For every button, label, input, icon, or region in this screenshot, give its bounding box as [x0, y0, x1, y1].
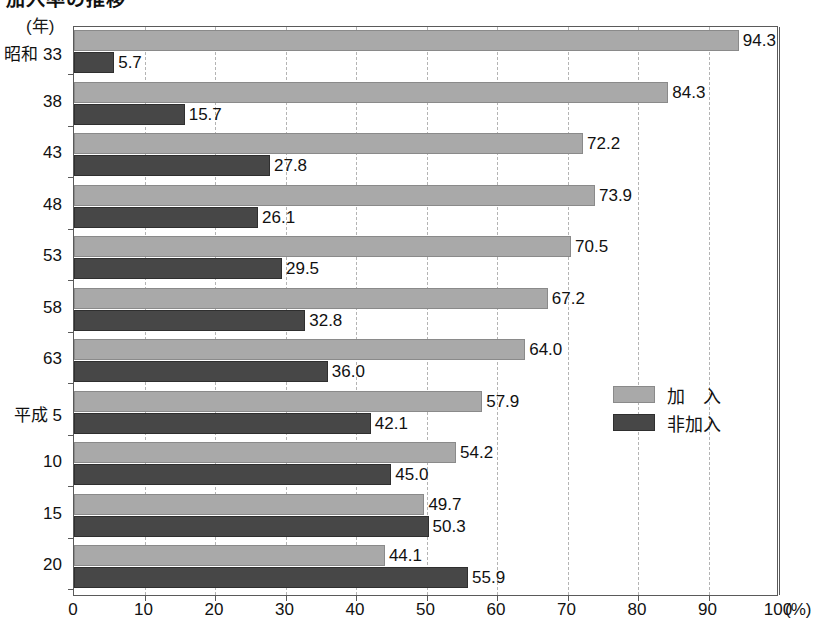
y-axis-tick — [68, 435, 74, 436]
bar-nonmember — [74, 52, 114, 73]
bar-value-label-nonmember: 29.5 — [282, 258, 319, 279]
y-axis-tick — [68, 280, 74, 281]
y-axis-labels: 昭和 33384348535863平成 5101520 — [0, 26, 66, 596]
bar-row: 73.926.1 — [74, 185, 777, 229]
y-axis-tick — [68, 126, 74, 127]
x-axis-tick-label: 70 — [557, 600, 576, 620]
bar-value-label-nonmember: 27.8 — [270, 155, 307, 176]
bar-member — [74, 288, 548, 309]
y-axis-label: 15 — [0, 504, 66, 524]
bar-value-label-member: 49.7 — [424, 494, 461, 515]
bar-value-label-member: 70.5 — [571, 236, 608, 257]
x-axis-tick-label: 40 — [346, 600, 365, 620]
bar-value-label-nonmember: 42.1 — [371, 413, 408, 434]
bar-nonmember — [74, 310, 305, 331]
plot-area: 94.35.784.315.772.227.873.926.170.529.56… — [73, 26, 778, 596]
y-axis-label: 43 — [0, 143, 66, 163]
bar-nonmember — [74, 258, 282, 279]
x-axis-tick-label: 60 — [487, 600, 506, 620]
y-axis-label: 昭和 33 — [0, 40, 66, 65]
legend-label-nonmember: 非加入 — [667, 410, 721, 436]
legend-label-member: 加 入 — [667, 382, 721, 408]
legend-swatch-nonmember-icon — [613, 414, 655, 431]
bar-value-label-member: 64.0 — [525, 339, 562, 360]
y-axis-tick — [68, 332, 74, 333]
y-axis-tick — [68, 538, 74, 539]
bar-value-label-nonmember: 15.7 — [185, 104, 222, 125]
bar-nonmember — [74, 464, 391, 485]
x-axis-tick-label: 10 — [134, 600, 153, 620]
y-axis-label: 63 — [0, 349, 66, 369]
bar-nonmember — [74, 516, 429, 537]
bar-value-label-nonmember: 50.3 — [429, 516, 466, 537]
bar-member — [74, 442, 456, 463]
x-axis-tick-label: 50 — [416, 600, 435, 620]
bar-member — [74, 185, 595, 206]
bar-row: 72.227.8 — [74, 133, 777, 177]
bar-member — [74, 133, 583, 154]
y-axis-tick — [68, 177, 74, 178]
x-axis-tick-label: 90 — [698, 600, 717, 620]
bar-member — [74, 339, 525, 360]
bar-value-label-nonmember: 45.0 — [391, 464, 428, 485]
bar-nonmember — [74, 207, 258, 228]
x-axis-tick-label: 100 — [764, 600, 792, 620]
legend-item-nonmember: 非加入 — [613, 410, 763, 435]
legend: 加 入 非加入 — [613, 382, 763, 438]
bar-row: 54.245.0 — [74, 442, 777, 486]
y-axis-label: 20 — [0, 555, 66, 575]
bar-row: 49.750.3 — [74, 494, 777, 538]
y-axis-label: 38 — [0, 92, 66, 112]
bar-row: 64.036.0 — [74, 339, 777, 383]
bar-value-label-member: 94.3 — [739, 30, 776, 51]
chart-title-clipped: 加入率の推移 — [0, 0, 821, 9]
y-axis-tick — [68, 486, 74, 487]
x-axis-tick-label: 20 — [205, 600, 224, 620]
y-axis-tick — [68, 383, 74, 384]
bar-row: 70.529.5 — [74, 236, 777, 280]
y-axis-tick — [68, 589, 74, 590]
legend-swatch-member-icon — [613, 386, 655, 403]
bar-value-label-nonmember: 36.0 — [328, 361, 365, 382]
chart-title-text: 加入率の推移 — [6, 0, 126, 9]
y-axis-tick — [68, 74, 74, 75]
bar-member — [74, 30, 739, 51]
bar-nonmember — [74, 413, 371, 434]
x-axis-tick-label: 80 — [628, 600, 647, 620]
bar-row: 67.232.8 — [74, 288, 777, 332]
bar-nonmember — [74, 567, 468, 588]
y-axis-label: 53 — [0, 246, 66, 266]
bar-value-label-member: 72.2 — [583, 133, 620, 154]
bar-value-label-nonmember: 5.7 — [114, 52, 142, 73]
bar-value-label-member: 57.9 — [482, 391, 519, 412]
y-axis-tick — [68, 229, 74, 230]
y-axis-label: 58 — [0, 298, 66, 318]
bar-value-label-member: 73.9 — [595, 185, 632, 206]
bar-value-label-member: 67.2 — [548, 288, 585, 309]
bar-nonmember — [74, 155, 270, 176]
bar-nonmember — [74, 361, 328, 382]
bar-row: 44.155.9 — [74, 545, 777, 589]
legend-item-member: 加 入 — [613, 382, 763, 407]
x-axis-tick-label: 0 — [68, 600, 77, 620]
x-axis: (%) 0102030405060708090100 — [73, 600, 778, 626]
bar-value-label-member: 44.1 — [385, 545, 422, 566]
y-axis-label: 48 — [0, 195, 66, 215]
x-axis-tick-label: 30 — [275, 600, 294, 620]
y-axis-label: 平成 5 — [0, 401, 66, 426]
gridline-100 — [779, 27, 780, 595]
y-axis-label: 10 — [0, 452, 66, 472]
bar-value-label-nonmember: 32.8 — [305, 310, 342, 331]
bar-row: 94.35.7 — [74, 30, 777, 74]
bar-member — [74, 391, 482, 412]
bar-value-label-nonmember: 26.1 — [258, 207, 295, 228]
bar-row: 84.315.7 — [74, 82, 777, 126]
bar-nonmember — [74, 104, 185, 125]
bar-value-label-member: 54.2 — [456, 442, 493, 463]
bar-member — [74, 236, 571, 257]
bar-member — [74, 82, 668, 103]
bar-member — [74, 494, 424, 515]
bar-value-label-member: 84.3 — [668, 82, 705, 103]
bar-member — [74, 545, 385, 566]
bar-value-label-nonmember: 55.9 — [468, 567, 505, 588]
